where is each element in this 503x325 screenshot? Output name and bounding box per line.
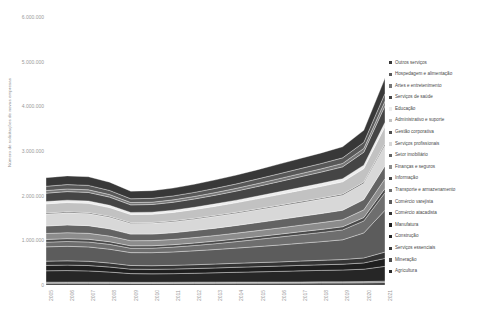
legend-swatch-icon bbox=[389, 223, 392, 226]
legend-item-label: Finanças e seguros bbox=[395, 165, 435, 170]
legend-swatch-icon bbox=[389, 131, 392, 134]
legend-swatch-icon bbox=[389, 258, 392, 261]
legend-swatch-icon bbox=[389, 84, 392, 87]
legend-swatch-icon bbox=[389, 154, 392, 157]
legend-item-label: Gestão corporativa bbox=[395, 130, 434, 135]
legend-item-label: Serviços essenciais bbox=[395, 246, 435, 251]
x-axis-tick-label: 2005 bbox=[48, 290, 54, 301]
x-axis-tick-label: 2006 bbox=[69, 290, 75, 301]
legend-item-label: Outros serviços bbox=[395, 61, 427, 66]
legend-item-label: Setor imobiliário bbox=[395, 153, 428, 158]
legend-item[interactable]: Mineração bbox=[389, 254, 501, 266]
legend: Outros serviçosHospedagem e alimentaçãoA… bbox=[389, 57, 501, 277]
x-axis-tick-label: 2013 bbox=[217, 290, 223, 301]
legend-item[interactable]: Administrativo e suporte bbox=[389, 115, 501, 127]
stacked-area-chart: Número de solicitações de novas empresas… bbox=[0, 0, 503, 325]
y-axis-title: Número de solicitações de novas empresas bbox=[7, 28, 12, 218]
legend-item[interactable]: Outros serviços bbox=[389, 57, 501, 69]
legend-item[interactable]: Transporte e armazenamento bbox=[389, 185, 501, 197]
x-axis-tick-label: 2017 bbox=[302, 290, 308, 301]
legend-swatch-icon bbox=[389, 119, 392, 122]
legend-swatch-icon bbox=[389, 270, 392, 273]
legend-item[interactable]: Comércio varejista bbox=[389, 196, 501, 208]
legend-item-label: Construção bbox=[395, 234, 419, 239]
legend-item[interactable]: Comércio atacadista bbox=[389, 208, 501, 220]
legend-item[interactable]: Gestão corporativa bbox=[389, 127, 501, 139]
x-axis-tick-label: 2012 bbox=[196, 290, 202, 301]
legend-item-label: Comércio atacadista bbox=[395, 211, 437, 216]
legend-item-label: Hospedagem e alimentação bbox=[395, 72, 452, 77]
x-axis-tick-label: 2021 bbox=[387, 290, 393, 301]
legend-item[interactable]: Serviços profissionais bbox=[389, 138, 501, 150]
x-axis-tick-label: 2007 bbox=[90, 290, 96, 301]
legend-item-label: Artes e entretenimento bbox=[395, 84, 441, 89]
legend-swatch-icon bbox=[389, 200, 392, 203]
legend-swatch-icon bbox=[389, 189, 392, 192]
legend-item[interactable]: Agricultura bbox=[389, 266, 501, 278]
y-axis-tick-label: 4.000.000 bbox=[2, 103, 44, 109]
x-axis-tick-label: 2020 bbox=[366, 290, 372, 301]
legend-item-label: Serviços profissionais bbox=[395, 142, 439, 147]
y-axis-tick-label: 6.000.000 bbox=[2, 14, 44, 20]
y-axis-tick-label: 0 bbox=[2, 282, 44, 288]
legend-item[interactable]: Artes e entretenimento bbox=[389, 80, 501, 92]
legend-item[interactable]: Manufatura bbox=[389, 219, 501, 231]
y-axis-tick-label: 2.000.000 bbox=[2, 193, 44, 199]
x-axis-tick-label: 2009 bbox=[133, 290, 139, 301]
x-axis-tick-label: 2016 bbox=[281, 290, 287, 301]
legend-item[interactable]: Serviços essenciais bbox=[389, 243, 501, 255]
x-axis: 2005200620072008200920102011201220132014… bbox=[46, 287, 385, 325]
legend-swatch-icon bbox=[389, 212, 392, 215]
y-axis-tick-label: 5.000.000 bbox=[2, 59, 44, 65]
legend-item-label: Administrativo e suporte bbox=[395, 118, 444, 123]
legend-item-label: Transporte e armazenamento bbox=[395, 188, 455, 193]
legend-item-label: Agricultura bbox=[395, 269, 417, 274]
legend-item[interactable]: Informação bbox=[389, 173, 501, 185]
x-axis-tick-label: 2019 bbox=[344, 290, 350, 301]
legend-swatch-icon bbox=[389, 61, 392, 64]
legend-item-label: Comércio varejista bbox=[395, 200, 433, 205]
legend-item[interactable]: Finanças e seguros bbox=[389, 161, 501, 173]
legend-item-label: Educação bbox=[395, 107, 415, 112]
x-axis-tick-label: 2014 bbox=[238, 290, 244, 301]
x-axis-tick-label: 2015 bbox=[260, 290, 266, 301]
legend-item[interactable]: Construção bbox=[389, 231, 501, 243]
x-axis-tick-label: 2008 bbox=[111, 290, 117, 301]
legend-item-label: Serviços de saúde bbox=[395, 95, 433, 100]
legend-swatch-icon bbox=[389, 96, 392, 99]
y-axis-tick-label: 3.000.000 bbox=[2, 148, 44, 154]
y-axis-tick-label: 1.000.000 bbox=[2, 237, 44, 243]
x-axis-tick-label: 2018 bbox=[323, 290, 329, 301]
legend-swatch-icon bbox=[389, 107, 392, 110]
legend-swatch-icon bbox=[389, 235, 392, 238]
legend-swatch-icon bbox=[389, 165, 392, 168]
legend-item-label: Mineração bbox=[395, 258, 416, 263]
legend-swatch-icon bbox=[389, 142, 392, 145]
area-series-group bbox=[46, 17, 385, 285]
plot-area bbox=[46, 17, 385, 285]
legend-item[interactable]: Setor imobiliário bbox=[389, 150, 501, 162]
legend-item[interactable]: Hospedagem e alimentação bbox=[389, 69, 501, 81]
legend-swatch-icon bbox=[389, 73, 392, 76]
legend-item[interactable]: Serviços de saúde bbox=[389, 92, 501, 104]
x-axis-tick-label: 2011 bbox=[175, 290, 181, 301]
legend-item-label: Informação bbox=[395, 176, 418, 181]
y-axis: Número de solicitações de novas empresas… bbox=[0, 0, 44, 325]
x-axis-tick-label: 2010 bbox=[154, 290, 160, 301]
legend-item[interactable]: Educação bbox=[389, 103, 501, 115]
legend-swatch-icon bbox=[389, 247, 392, 250]
legend-item-label: Manufatura bbox=[395, 223, 418, 228]
legend-swatch-icon bbox=[389, 177, 392, 180]
